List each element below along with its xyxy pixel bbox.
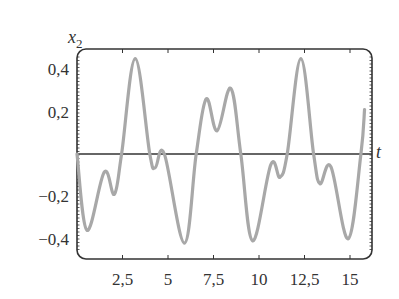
x-tick-label: 15 [342,270,359,289]
x-tick-label: 12,5 [290,270,320,289]
x-tick-label: 5 [164,270,173,289]
x-axis-label: t [376,142,382,162]
y-axis-label-main: x [67,27,76,47]
data-curve [77,59,365,243]
y-axis-label-subscript: 2 [76,36,83,51]
x-tick-label: 7,5 [203,270,224,289]
x-tick-label: 10 [251,270,268,289]
y-tick-label: 0,4 [48,60,70,79]
y-tick-label: −0,2 [38,187,69,206]
y-tick-label: −0,4 [38,230,69,249]
y-axis-ticks: 0,40,2−0,2−0,4 [38,60,69,249]
line-chart: 2,557,51012,515 0,40,2−0,2−0,4 x2 t [0,0,399,299]
x-axis-ticks: 2,557,51012,515 [112,49,359,289]
x-tick-label: 2,5 [112,270,133,289]
y-axis-label: x2 [67,27,83,51]
y-tick-label: 0,2 [48,103,69,122]
